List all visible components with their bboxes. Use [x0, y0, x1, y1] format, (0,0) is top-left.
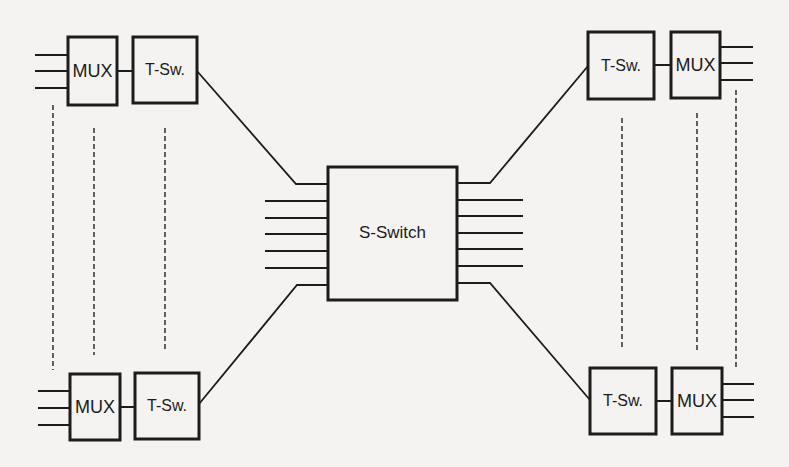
- stage-top-left: MUXT-Sw.: [35, 37, 197, 105]
- mux-label: MUX: [73, 61, 113, 81]
- link-top-right: [457, 66, 588, 183]
- s-switch-label: S-Switch: [359, 223, 426, 242]
- stage-top-right: MUXT-Sw.: [588, 32, 753, 99]
- link-top-left: [197, 71, 328, 184]
- t-switch-label: T-Sw.: [603, 392, 643, 409]
- stage-bottom-left: MUXT-Sw.: [38, 373, 199, 440]
- diagram-canvas: S-Switch MUXT-Sw.MUXT-Sw.MUXT-Sw.MUXT-Sw…: [0, 0, 789, 467]
- link-bottom-right: [457, 283, 590, 400]
- tst-switch-diagram: S-Switch MUXT-Sw.MUXT-Sw.MUXT-Sw.MUXT-Sw…: [0, 0, 789, 467]
- t-switch-label: T-Sw.: [147, 397, 187, 414]
- t-switch-label: T-Sw.: [145, 61, 185, 78]
- link-bottom-left: [199, 285, 328, 404]
- mux-label: MUX: [677, 391, 717, 411]
- stage-bottom-right: MUXT-Sw.: [590, 368, 754, 434]
- s-switch: S-Switch: [265, 167, 523, 300]
- t-switch-label: T-Sw.: [601, 57, 641, 74]
- mux-label: MUX: [676, 55, 716, 75]
- mux-label: MUX: [75, 397, 115, 417]
